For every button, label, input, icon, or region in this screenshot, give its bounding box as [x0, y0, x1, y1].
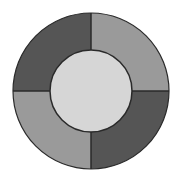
ring-diagram-svg — [0, 0, 183, 180]
ring-diagram — [0, 0, 183, 180]
inner-circle — [50, 50, 132, 132]
